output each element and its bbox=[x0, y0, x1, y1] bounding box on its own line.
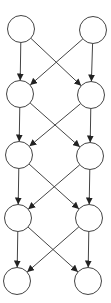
node-r5r bbox=[75, 268, 102, 295]
edge-r2r-r3l bbox=[29, 104, 80, 147]
edge-r1r-r2l bbox=[30, 39, 83, 85]
node-r2r bbox=[78, 82, 105, 109]
nodes-group bbox=[4, 16, 107, 295]
node-r5l bbox=[4, 268, 31, 295]
edge-r1l-r2l bbox=[20, 42, 21, 80]
node-r3r bbox=[77, 143, 104, 170]
edge-r4l-r5l bbox=[17, 231, 18, 267]
layered-graph-diagram bbox=[0, 0, 111, 303]
edge-r4r-r5r bbox=[88, 231, 89, 267]
edge-r3l-r4l bbox=[18, 168, 19, 204]
edge-r2r-r3r bbox=[90, 108, 91, 142]
edge-r1r-r2r bbox=[91, 43, 92, 81]
node-r2l bbox=[7, 81, 34, 108]
edge-r2l-r3l bbox=[19, 107, 20, 141]
node-r4r bbox=[76, 205, 103, 232]
node-r3l bbox=[6, 142, 33, 169]
node-r1l bbox=[8, 16, 35, 43]
node-r4l bbox=[5, 205, 32, 232]
node-r1r bbox=[80, 17, 107, 44]
edge-r3r-r4r bbox=[89, 169, 90, 204]
